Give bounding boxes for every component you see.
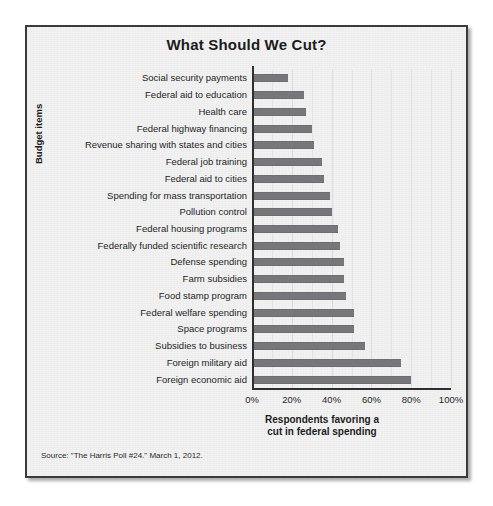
category-label: Federal highway financing [137, 124, 247, 134]
x-tick-label-40: 40% [322, 394, 341, 405]
x-tick-label-80: 80% [402, 394, 421, 405]
x-axis-title-line1: Respondents favoring a [197, 414, 447, 426]
category-label: Foreign military aid [167, 358, 247, 368]
category-label: Federal aid to education [145, 90, 247, 100]
chart-title: What Should We Cut? [27, 36, 466, 53]
plot-area: Social security paymentsFederal aid to e… [63, 70, 453, 388]
bar [254, 342, 365, 350]
chart-figure: What Should We Cut? Budget items Social … [25, 25, 468, 478]
bar [254, 141, 314, 149]
bar [254, 309, 354, 317]
bar [254, 158, 322, 166]
source-note: Source: "The Harris Poll #24." March 1, … [41, 451, 203, 460]
bar [254, 376, 411, 384]
gridline-60 [371, 70, 372, 388]
x-axis-ticks: 0%20%40%60%80%100% [252, 394, 453, 408]
gridline-90 [431, 70, 432, 388]
gridline-50 [352, 70, 353, 388]
category-label: Health care [198, 107, 247, 117]
category-label: Federal aid to cities [165, 174, 247, 184]
bar [254, 325, 354, 333]
bar [254, 242, 340, 250]
category-label: Spending for mass transportation [107, 191, 247, 201]
category-label: Defense spending [170, 257, 247, 267]
category-label: Social security payments [142, 73, 247, 83]
gridline-80 [411, 70, 412, 388]
category-label: Foreign economic aid [156, 375, 247, 385]
x-axis-title: Respondents favoring a cut in federal sp… [197, 414, 447, 438]
bar [254, 359, 401, 367]
category-label: Federal housing programs [136, 224, 247, 234]
bar [254, 91, 304, 99]
x-tick-label-60: 60% [362, 394, 381, 405]
bar [254, 125, 312, 133]
bar [254, 292, 346, 300]
x-axis-line [252, 388, 451, 390]
category-label-column: Social security paymentsFederal aid to e… [63, 70, 252, 388]
bar [254, 225, 338, 233]
x-tick-label-100: 100% [439, 394, 463, 405]
y-axis-title: Budget items [33, 150, 44, 164]
category-label: Space programs [177, 324, 247, 334]
bar [254, 192, 330, 200]
bars-area [252, 70, 453, 388]
bar [254, 108, 306, 116]
category-label: Federal welfare spending [140, 308, 247, 318]
category-label: Subsidies to business [155, 341, 247, 351]
category-label: Farm subsidies [183, 274, 247, 284]
category-label: Federally funded scientific research [98, 241, 247, 251]
x-axis-title-line2: cut in federal spending [197, 426, 447, 438]
category-label: Federal job training [166, 157, 247, 167]
bar [254, 74, 288, 82]
bar [254, 208, 332, 216]
gridline-100 [451, 70, 452, 388]
x-tick-label-0: 0% [245, 394, 259, 405]
screenshot-root: What Should We Cut? Budget items Social … [0, 0, 493, 506]
category-label: Pollution control [179, 207, 247, 217]
bar [254, 275, 344, 283]
category-label: Revenue sharing with states and cities [85, 140, 247, 150]
bar [254, 258, 344, 266]
category-label: Food stamp program [159, 291, 247, 301]
bar [254, 175, 324, 183]
x-tick-label-20: 20% [282, 394, 301, 405]
gridline-70 [391, 70, 392, 388]
